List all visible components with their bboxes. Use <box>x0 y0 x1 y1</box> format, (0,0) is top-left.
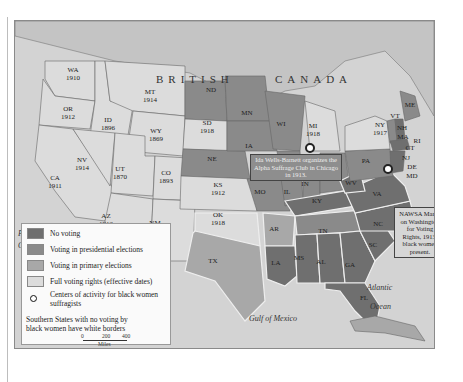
state-or: OR1912 <box>61 105 75 121</box>
legend-item-primary: Voting in primary elections <box>27 260 132 271</box>
atlantic-label-2: Ocean <box>370 302 391 311</box>
state-ms: MS <box>294 254 304 262</box>
state-tx: TX <box>208 257 217 265</box>
legend-item-full: Full voting rights (effective dates) <box>27 276 152 287</box>
state-la: LA <box>271 259 280 267</box>
center-marker-icon <box>30 295 37 302</box>
state-nc: NC <box>373 220 383 228</box>
state-ia: IA <box>245 142 252 150</box>
state-ne: NE <box>207 155 216 163</box>
state-nv: NV1914 <box>75 156 89 172</box>
state-nh: NH <box>397 124 407 132</box>
state-me: ME <box>405 101 416 109</box>
state-ok: OK1918 <box>211 211 225 227</box>
legend-item-no-voting: No voting <box>27 228 80 239</box>
state-sd: SD1918 <box>200 119 214 135</box>
state-pa: PA <box>362 157 370 165</box>
state-ma: MA <box>397 133 408 141</box>
state-in: IN <box>301 180 308 188</box>
state-co: CO1893 <box>159 169 173 185</box>
washington-center-marker <box>383 164 393 174</box>
state-nd: ND <box>206 86 216 94</box>
british-label: BRITISH <box>156 73 234 85</box>
state-mn: MN <box>241 109 252 117</box>
scale-bar: 0 200 400 Miles <box>82 333 134 347</box>
state-al: AL <box>316 258 325 266</box>
state-id: ID1896 <box>101 116 115 132</box>
swatch-presidential <box>27 244 44 255</box>
state-tn: TN <box>318 227 327 235</box>
state-ky: KY <box>312 197 322 205</box>
state-md: MD <box>406 172 417 180</box>
state-fl: FL <box>360 294 368 302</box>
state-sc: SC <box>369 241 378 249</box>
atlantic-label-1: Atlantic <box>367 283 392 292</box>
legend: No voting Voting in presidential electio… <box>21 223 171 345</box>
state-nj: NJ <box>402 154 410 162</box>
state-wi: WI <box>277 120 286 128</box>
state-ks: KS1912 <box>211 181 225 197</box>
chicago-callout: Ida Wells-Barnett organizes the Alpha Su… <box>250 154 342 181</box>
page-margin-line <box>7 17 8 382</box>
washington-callout: NAWSA March on Washington for Voting Rig… <box>394 207 435 258</box>
state-ri: RI <box>414 137 421 145</box>
state-mo: MO <box>254 188 265 196</box>
state-il: IL <box>284 188 291 196</box>
state-wy: WY1869 <box>149 127 163 143</box>
swatch-no-voting <box>27 228 44 239</box>
state-ut: UT1870 <box>113 165 127 181</box>
state-va: VA <box>372 190 381 198</box>
state-ga: GA <box>345 261 355 269</box>
state-de: DE <box>407 163 416 171</box>
state-mi: MI1918 <box>306 122 320 138</box>
state-ny: NY1917 <box>373 121 387 137</box>
legend-item-presidential: Voting in presidential elections <box>27 244 143 255</box>
state-wv: WV <box>345 179 357 187</box>
chicago-center-marker <box>305 143 315 153</box>
state-mt: MT1914 <box>143 88 157 104</box>
state-ar: AR <box>269 225 279 233</box>
state-ct: CT <box>406 144 415 152</box>
gulf-label: Gulf of Mexico <box>249 314 297 323</box>
state-wa: WA1910 <box>66 66 80 82</box>
swatch-primary <box>27 260 44 271</box>
legend-note: Southern States with no voting by black … <box>26 315 136 333</box>
legend-centers-label: Centers of activity for black women suff… <box>50 291 168 308</box>
state-ca: CA1911 <box>48 174 62 190</box>
swatch-full <box>27 276 44 287</box>
state-vt: VT <box>390 112 399 120</box>
canada-label: CANADA <box>275 73 352 85</box>
